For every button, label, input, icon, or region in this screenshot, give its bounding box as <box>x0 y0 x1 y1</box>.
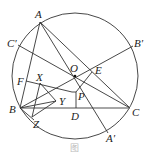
label-C: C <box>132 106 140 118</box>
label-A: A <box>34 8 42 20</box>
label-A-prime: A′ <box>105 132 116 144</box>
label-O: O <box>70 62 78 74</box>
segment-XZ <box>32 83 40 117</box>
segment-BZ <box>20 108 34 120</box>
label-Y: Y <box>59 95 67 107</box>
label-F: F <box>16 75 24 87</box>
segment-XY <box>40 83 56 101</box>
segment-FP <box>26 81 72 92</box>
label-D: D <box>70 110 79 122</box>
label-E: E <box>94 64 102 76</box>
label-X: X <box>35 71 44 83</box>
label-Z: Z <box>33 118 40 130</box>
label-P: P <box>77 90 85 102</box>
geometry-diagram: A B C O E P D F X Y Z A′ B′ C′ 图 <box>0 0 150 152</box>
center-point-O <box>74 75 77 78</box>
segment-EP <box>76 72 92 92</box>
figure-caption: 图 <box>70 143 79 152</box>
label-B: B <box>9 103 16 115</box>
label-B-prime: B′ <box>134 37 144 49</box>
label-C-prime: C′ <box>7 37 17 49</box>
